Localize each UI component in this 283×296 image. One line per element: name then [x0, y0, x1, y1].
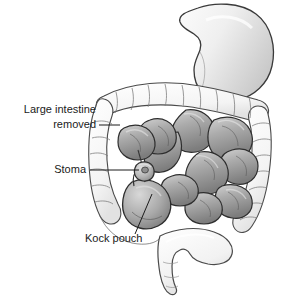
illustration-canvas: Large intestine removed Stoma Kock pouch: [0, 0, 283, 296]
stoma-nub: [134, 162, 154, 181]
anatomical-illustration: Large intestine removed Stoma Kock pouch: [0, 0, 283, 296]
rectum-sigmoid: [158, 229, 233, 295]
label-large-intestine-removed-line2: removed: [53, 118, 96, 130]
label-stoma: Stoma: [54, 163, 87, 175]
label-kock-pouch: Kock pouch: [85, 232, 142, 244]
label-large-intestine-removed-line1: Large intestine: [24, 103, 96, 115]
